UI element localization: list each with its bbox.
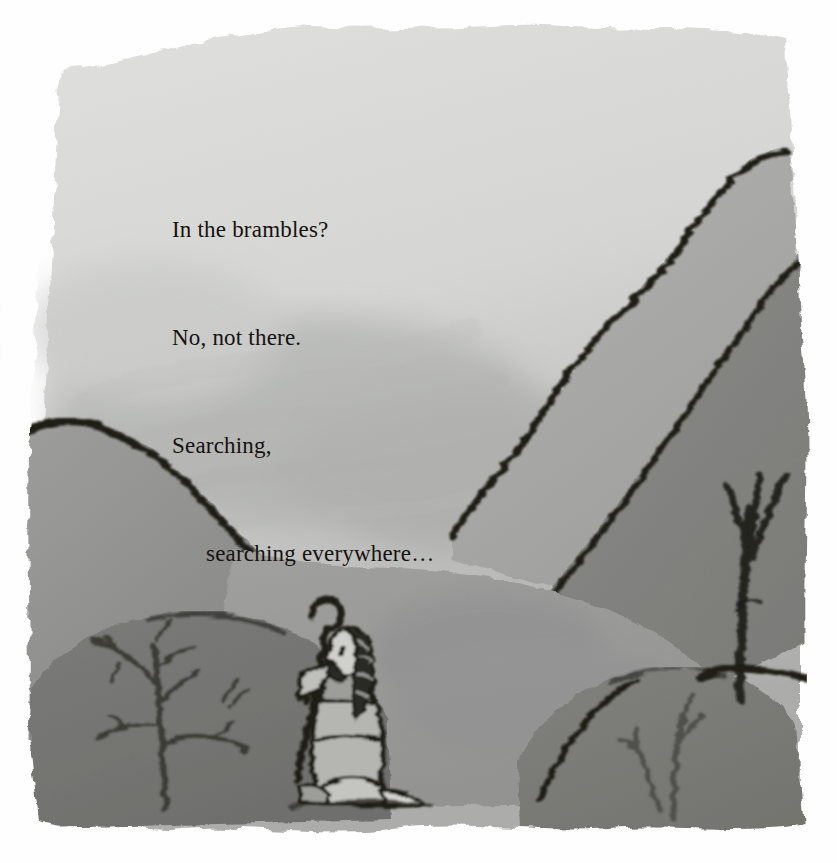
scene-illustration: [0, 0, 837, 863]
paper-grain: [0, 0, 837, 863]
storybook-page: In the brambles? No, not there. Searchin…: [0, 0, 837, 863]
